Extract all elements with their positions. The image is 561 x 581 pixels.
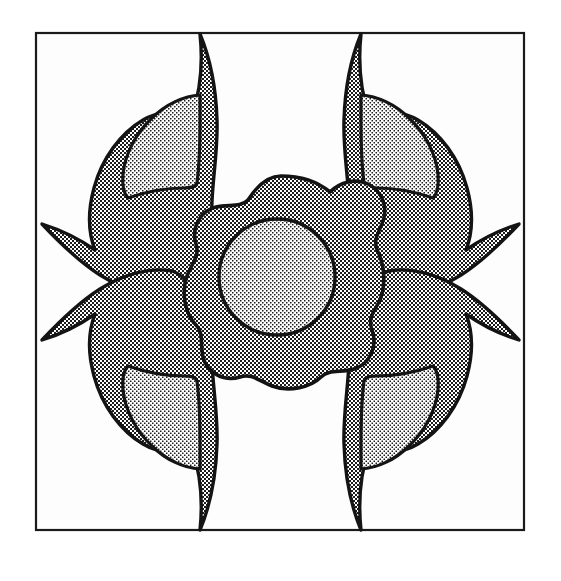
artwork-canvas [0, 0, 561, 581]
center-flower [184, 176, 385, 389]
center-flower-disc [219, 219, 335, 335]
floral-block-pattern [0, 0, 561, 581]
